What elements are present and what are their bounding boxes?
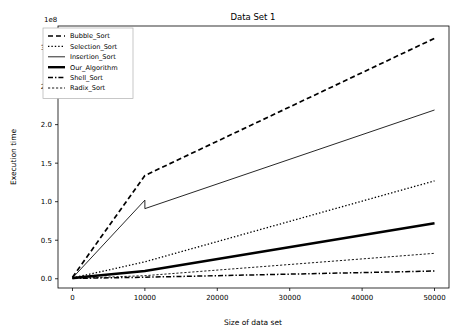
legend-label-our-algorithm[interactable]: Our_Algorithm <box>70 64 118 72</box>
x-tick-label: 0 <box>70 294 74 302</box>
y-tick-label: 1.5 <box>41 160 52 168</box>
chart-title: Data Set 1 <box>230 12 275 22</box>
x-tick-label: 30000 <box>279 294 301 302</box>
y-tick-label: 0.0 <box>41 275 52 283</box>
chart-figure: Data Set 1 1e8 Size of data set Executio… <box>0 0 473 334</box>
y-axis-label: Execution time <box>9 129 18 186</box>
legend-label-selection-sort[interactable]: Selection_Sort <box>70 43 118 51</box>
y-tick-label: 0.5 <box>41 237 52 245</box>
x-tick-label: 10000 <box>134 294 156 302</box>
x-axis-ticks: 01000020000300004000050000 <box>70 288 445 302</box>
series-line-our-algorithm <box>72 223 434 278</box>
y-tick-label: 2.0 <box>41 121 52 129</box>
x-tick-label: 40000 <box>351 294 373 302</box>
x-tick-label: 20000 <box>206 294 228 302</box>
y-axis-offset-label: 1e8 <box>44 16 57 24</box>
legend-label-shell-sort[interactable]: Shell_Sort <box>70 74 103 82</box>
legend-label-radix-sort[interactable]: Radix_Sort <box>70 84 106 92</box>
legend-label-insertion-sort[interactable]: Insertion_Sort <box>70 53 116 61</box>
chart-canvas: Data Set 1 1e8 Size of data set Executio… <box>0 0 473 334</box>
x-tick-label: 50000 <box>423 294 445 302</box>
legend-label-bubble-sort[interactable]: Bubble_Sort <box>70 32 110 40</box>
y-tick-label: 1.0 <box>41 198 52 206</box>
series-line-selection-sort <box>72 181 434 278</box>
chart-legend[interactable]: Bubble_SortSelection_SortInsertion_SortO… <box>43 28 133 98</box>
x-axis-label: Size of data set <box>224 318 282 327</box>
